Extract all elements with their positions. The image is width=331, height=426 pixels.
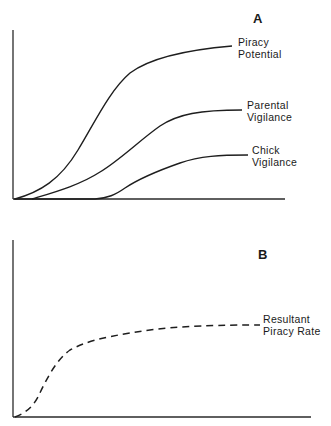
chick-vigilance-curve — [14, 155, 248, 199]
parental-vigilance-label-line2: Vigilance — [247, 111, 292, 123]
parental-vigilance-label: Parental Vigilance — [247, 99, 292, 123]
resultant-piracy-rate-label-line2: Piracy Rate — [263, 325, 321, 337]
panel-a-label: A — [253, 11, 262, 26]
piracy-potential-label: Piracy Potential — [238, 36, 282, 60]
resultant-piracy-rate-label-line1: Resultant — [263, 313, 321, 325]
figure-canvas — [0, 0, 331, 426]
piracy-potential-curve — [15, 46, 232, 199]
chick-vigilance-label-line2: Vigilance — [252, 156, 297, 168]
resultant-piracy-rate-label: Resultant Piracy Rate — [263, 313, 321, 337]
piracy-potential-label-line1: Piracy — [238, 36, 282, 48]
piracy-potential-label-line2: Potential — [238, 48, 282, 60]
parental-vigilance-curve — [32, 110, 242, 199]
parental-vigilance-label-line1: Parental — [247, 99, 292, 111]
panel-b-label: B — [258, 247, 267, 262]
chick-vigilance-label: Chick Vigilance — [252, 144, 297, 168]
resultant-piracy-rate-curve — [15, 325, 260, 417]
chick-vigilance-label-line1: Chick — [252, 144, 297, 156]
